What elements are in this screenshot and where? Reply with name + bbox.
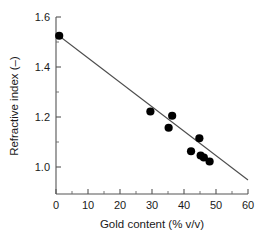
axes-group — [56, 17, 248, 194]
x-tick-label-6: 60 — [242, 199, 254, 211]
x-axis-major-ticks — [56, 189, 248, 194]
x-tick-label-2: 20 — [114, 199, 126, 211]
data-point — [195, 134, 203, 142]
y-tick-label-1: 1.2 — [35, 111, 50, 123]
data-point — [206, 157, 214, 165]
x-tick-label-0: 0 — [53, 199, 59, 211]
x-tick-label-4: 40 — [178, 199, 190, 211]
x-tick-label-3: 30 — [146, 199, 158, 211]
chart-canvas: 1.6 1.4 1.2 1.0 0 10 20 30 40 50 60 Gold… — [0, 0, 266, 239]
y-axis-title: Refractive index (–) — [8, 56, 20, 156]
data-points-group — [55, 32, 214, 166]
y-tick-label-2: 1.4 — [35, 61, 50, 73]
y-tick-label-3: 1.6 — [35, 11, 50, 23]
data-point — [146, 107, 154, 115]
y-axis-tick-labels: 1.6 1.4 1.2 1.0 — [35, 11, 50, 173]
data-point — [168, 112, 176, 120]
refractive-index-vs-gold-content-chart: 1.6 1.4 1.2 1.0 0 10 20 30 40 50 60 Gold… — [0, 0, 266, 239]
data-point — [55, 32, 63, 40]
y-tick-label-0: 1.0 — [35, 161, 50, 173]
data-point — [187, 147, 195, 155]
linear-fit-line — [58, 35, 248, 180]
x-tick-label-1: 10 — [82, 199, 94, 211]
x-tick-label-5: 50 — [210, 199, 222, 211]
data-point — [165, 124, 173, 132]
x-axis-title: Gold content (% v/v) — [100, 218, 204, 230]
x-axis-tick-labels: 0 10 20 30 40 50 60 — [53, 199, 254, 211]
